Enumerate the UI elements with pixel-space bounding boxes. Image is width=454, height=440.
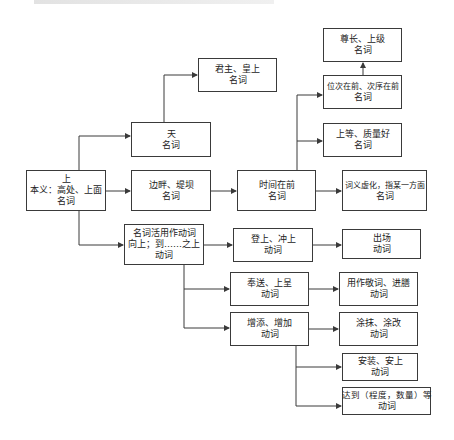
node-junzhu: 君主、皇上 名词 [198, 58, 277, 92]
node-jingci: 用作敬词、进膳 动词 [339, 272, 418, 306]
node-label: 名词 [162, 191, 180, 202]
node-label: 君主、皇上 [215, 64, 260, 75]
node-label: 名词 [354, 92, 372, 103]
node-label: 安装、安上 [358, 356, 403, 367]
node-weici: 位次在前、次序在前 名词 [323, 75, 402, 109]
node-label: 登上、冲上 [251, 234, 296, 245]
node-label: 动词 [371, 367, 389, 378]
node-label: 上等、质量好 [336, 129, 390, 140]
node-shangdeng: 上等、质量好 名词 [323, 123, 402, 157]
node-huoyong: 名词活用作动词 向上；到……之上 动词 [124, 224, 204, 265]
node-root-shang: 上 本义：高处、上面 名词 [26, 170, 106, 211]
node-label: 增添、增加 [247, 318, 292, 329]
node-label: 名词 [354, 140, 372, 151]
node-label: 动词 [378, 401, 396, 412]
node-label: 向上；到……之上 [128, 239, 200, 250]
node-label: 名词 [229, 75, 247, 86]
node-label: 时间在前 [259, 180, 295, 191]
node-label: 动词 [370, 289, 388, 300]
node-label: 尊长、上级 [340, 34, 385, 45]
node-label: 涂抹、涂改 [356, 318, 401, 329]
node-zunzhang: 尊长、上级 名词 [323, 28, 402, 62]
node-chuchang: 出场 动词 [342, 229, 421, 259]
node-label: 动词 [261, 289, 279, 300]
node-label: 名词 [376, 191, 394, 202]
node-label: 动词 [261, 329, 279, 340]
node-label: 达到（程度，数量）等 [342, 390, 432, 401]
node-anzhuang: 安装、安上 动词 [342, 353, 418, 381]
node-label: 动词 [373, 244, 391, 255]
node-zengtian: 增添、增加 动词 [230, 312, 309, 346]
node-label: 边畔、堤坝 [149, 180, 194, 191]
node-label: 上 [62, 174, 71, 185]
node-label: 名词活用作动词 [133, 228, 196, 239]
node-label: 名词 [57, 196, 75, 207]
node-fengsong: 奉送、上呈 动词 [230, 272, 309, 306]
node-label: 出场 [373, 233, 391, 244]
node-tumo: 涂抹、涂改 动词 [339, 312, 418, 346]
node-label: 用作敬词、进膳 [347, 278, 410, 289]
node-label: 本义：高处、上面 [30, 185, 102, 196]
node-label: 天 [167, 129, 176, 140]
node-label: 位次在前、次序在前 [327, 81, 399, 92]
node-label: 名词 [354, 45, 372, 56]
node-label: 动词 [264, 245, 282, 256]
node-label: 动词 [155, 250, 173, 261]
node-shijian: 时间在前 名词 [237, 170, 316, 211]
node-dadao: 达到（程度，数量）等 动词 [342, 387, 431, 415]
node-label: 动词 [370, 329, 388, 340]
node-label: 奉送、上呈 [247, 278, 292, 289]
node-dengshang: 登上、冲上 动词 [233, 228, 313, 262]
node-bianpan: 边畔、堤坝 名词 [131, 170, 211, 211]
node-ciyi: 词义虚化，指某一方面 名词 [342, 170, 427, 211]
node-tian: 天 名词 [131, 122, 211, 157]
node-label: 词义虚化，指某一方面 [345, 180, 425, 191]
node-label: 名词 [162, 140, 180, 151]
node-label: 名词 [268, 191, 286, 202]
